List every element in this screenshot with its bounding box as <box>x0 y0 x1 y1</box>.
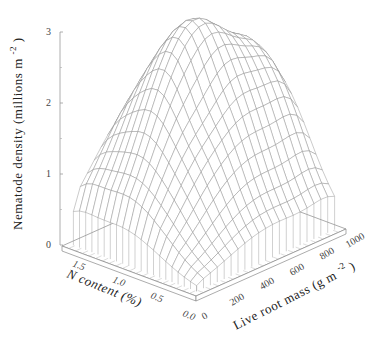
y-tick-label: 600 <box>288 261 306 278</box>
x-tick-label: 0.5 <box>149 290 165 305</box>
z-tick-label: 0 <box>46 239 51 250</box>
y-tick-label: 800 <box>318 245 336 262</box>
z-tick-label: 3 <box>46 26 51 37</box>
y-tick-label: 200 <box>228 291 246 308</box>
x-tick-label: 0.0 <box>181 308 197 323</box>
y-tick-label: 0 <box>200 310 210 322</box>
y-tick-label: 400 <box>258 275 276 292</box>
z-axis-title: Nematode density (millions m -2 ) <box>4 37 25 230</box>
z-tick-label: 1 <box>46 168 51 179</box>
z-axis-ticks: 0123 <box>46 26 63 250</box>
z-tick-label: 2 <box>46 97 51 108</box>
surface-chart: 0123 Nematode density (millions m -2 ) 1… <box>0 0 385 340</box>
y-tick-label: 1000 <box>344 230 367 250</box>
